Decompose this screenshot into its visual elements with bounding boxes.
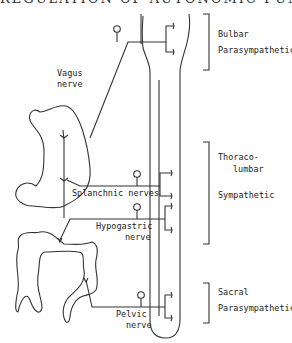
thoraco-label-1: Thoraco- (218, 152, 259, 163)
vagus-branch2 (166, 42, 174, 52)
pelvic-label-2: nerve (126, 320, 152, 331)
vagus-label-2: nerve (57, 79, 83, 90)
splanchnic-nerve-line (67, 180, 160, 186)
bulbar-bracket (203, 14, 209, 70)
thoracolumbar-bracket (203, 142, 209, 244)
pelvic-label-1: Pelvic (116, 309, 147, 320)
vagus-nerve-path (63, 130, 64, 218)
spinal-cord-outline (142, 14, 189, 338)
sympathetic-label: Sympathetic (218, 190, 274, 201)
bulbar-label-2: Parasympathetic (218, 45, 292, 56)
splanchnic-branch2 (160, 186, 172, 196)
splanchnic-ganglion (134, 171, 141, 178)
sacral-label-1: Sacral (218, 287, 249, 298)
colon-outline (16, 232, 98, 323)
sacral-bracket (203, 283, 209, 323)
vagus-nerve-line (90, 42, 164, 138)
splanchnic-label: Splanchnic nerves (72, 188, 159, 199)
splanchnic-branch (160, 173, 172, 186)
hypogastric-label-1: Hypogastric (96, 221, 152, 232)
vagus-ganglion (114, 26, 121, 33)
hypogastric-label-2: nerve (125, 232, 151, 243)
thoraco-label-2: lumbar (233, 164, 264, 175)
vagus-branch (164, 26, 174, 42)
vagus-label-1: Vagus (57, 68, 83, 79)
sacral-label-2: Parasympathetic (218, 303, 292, 314)
pelvic-ganglion (138, 292, 145, 299)
pelvic-nerve-line (86, 280, 165, 307)
page-title: REGULATION OF AUTONOMIC FUNCTIONS (0, 0, 292, 6)
bulbar-label-1: Bulbar (218, 29, 249, 40)
hypogastric-ganglion (134, 204, 141, 211)
autonomic-diagram: REGULATION OF AUTONOMIC FUNCTIONS (0, 0, 292, 343)
